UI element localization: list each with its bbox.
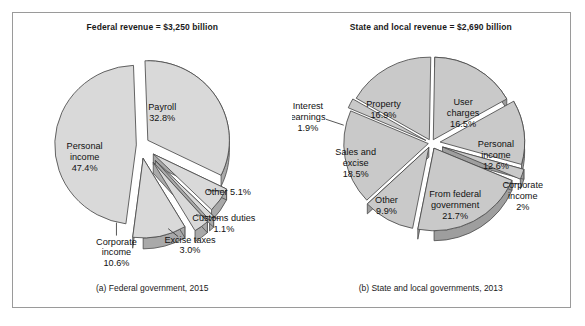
pie-slice-label: Other 5.1% — [205, 187, 251, 197]
pie-slice-label: Property16.9% — [366, 99, 401, 120]
state-chart-title: State and local revenue = $2,690 billion — [292, 22, 571, 32]
panel-state-local-government: State and local revenue = $2,690 billion… — [292, 13, 571, 307]
federal-chart-caption: (a) Federal government, 2015 — [13, 283, 292, 293]
state-chart-caption: (b) State and local governments, 2013 — [292, 283, 571, 293]
pie-slice-label: Interestearnings1.9% — [292, 101, 326, 133]
pie-slice-label: Personalincome12.6% — [477, 139, 513, 171]
pie-slice-label: Excise taxes3.0% — [164, 235, 216, 256]
panel-federal-government: Federal revenue = $3,250 billion Payroll… — [13, 13, 292, 307]
state-local-pie-chart: Usercharges16.5%Personalincome12.6%Corpo… — [292, 33, 571, 283]
figure-frame: Federal revenue = $3,250 billion Payroll… — [12, 12, 571, 308]
pie-slice-label: Other9.9% — [375, 195, 398, 216]
pie-slice-label: Corporateincome10.6% — [96, 237, 137, 269]
federal-chart-title: Federal revenue = $3,250 billion — [13, 22, 292, 32]
label-leader-line — [325, 119, 343, 125]
pie-slice-label: Payroll32.8% — [148, 102, 176, 123]
pie-slice-label: Personalincome47.4% — [67, 141, 103, 173]
pie-slice-label: Corporateincome2% — [502, 180, 543, 212]
federal-pie-chart: Payroll32.8%Personalincome47.4%Other 5.1… — [13, 33, 292, 283]
